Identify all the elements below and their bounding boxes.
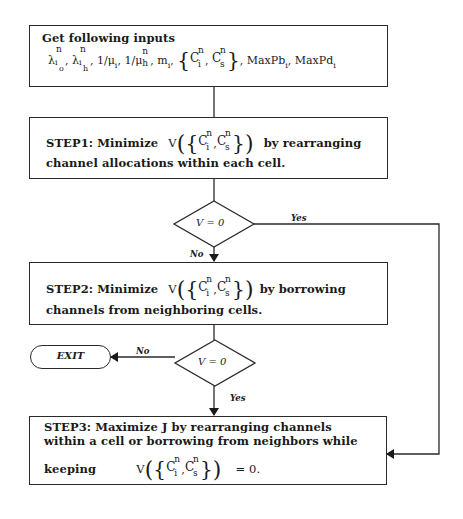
decision2-yes-label: Yes — [230, 393, 246, 403]
v-function: V — [168, 282, 176, 296]
step2-suffix: by borrowing — [260, 282, 346, 296]
step3-keeping: keeping — [44, 462, 96, 476]
decision2-condition: V = 0 — [198, 356, 226, 367]
inputs-parameters: λnio, λnih, 1/μi, 1/μnh, mi, {Cni, Cns},… — [48, 48, 336, 72]
v-function: V — [168, 136, 176, 150]
decision1-condition: V = 0 — [196, 217, 224, 228]
step1-line2: channel allocations within each cell. — [46, 156, 285, 170]
sup-n: n — [56, 44, 62, 54]
step1-suffix: by rearranging — [264, 136, 362, 150]
v-function: V — [136, 462, 144, 476]
decision1-no-label: No — [190, 249, 203, 259]
lambda-symbol: λ — [72, 54, 79, 67]
step1-box: STEP1: Minimize V({Cni,Cns}) by rearrang… — [29, 117, 388, 179]
step2-prefix: STEP2: Minimize — [46, 282, 158, 296]
decision2-no-label: No — [136, 346, 149, 356]
sub-o: o — [59, 64, 64, 73]
sub-i: i — [55, 58, 58, 67]
step2-box: STEP2: Minimize V({Cni,Cns}) by borrowin… — [29, 262, 388, 325]
step2-line2: channels from neighboring cells. — [46, 303, 262, 317]
step3-box: STEP3: Maximize J by rearranging channel… — [29, 416, 387, 485]
step2-line1: STEP2: Minimize V({Cni,Cns}) by borrowin… — [46, 277, 346, 302]
decision1-yes-label: Yes — [291, 213, 307, 223]
exit-label: EXIT — [31, 350, 110, 361]
step3-equals: = 0. — [236, 462, 261, 476]
step3-line1: STEP3: Maximize J by rearranging channel… — [44, 420, 332, 434]
step1-line1: STEP1: Minimize V({Cni,Cns}) by rearrang… — [46, 131, 361, 156]
inputs-heading: Get following inputs — [42, 31, 175, 45]
mu-symbol: μ — [108, 54, 115, 67]
inputs-box: Get following inputs λnio, λnih, 1/μi, 1… — [29, 25, 388, 87]
lambda-symbol: λ — [48, 54, 55, 67]
step1-prefix: STEP1: Minimize — [46, 136, 158, 150]
flowchart-canvas: Get following inputs λnio, λnih, 1/μi, 1… — [0, 0, 463, 519]
step3-line3: keeping V({Cni,Cns}) = 0. — [44, 457, 260, 482]
step3-line2: within a cell or borrowing from neighbor… — [44, 434, 358, 448]
exit-terminator: EXIT — [30, 345, 111, 369]
